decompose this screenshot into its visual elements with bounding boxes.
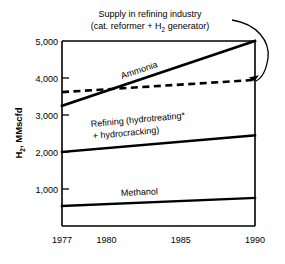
y-axis-ticks: [62, 78, 69, 189]
series-line-refining: [62, 135, 255, 152]
y-tick-label-2000: 2,000: [35, 148, 58, 158]
x-tick-label-1990: 1990: [245, 235, 265, 245]
chart-title-line2: (cat. reformer + H2 generator): [91, 21, 209, 33]
series-label-ammonia: Ammonia: [119, 59, 158, 81]
series-line-supply-refining-industry: [62, 80, 255, 92]
series-label-methanol: Methanol: [121, 186, 158, 198]
y-tick-label-3000: 3,000: [35, 111, 58, 121]
y-axis-title: H2, MMscfd: [13, 107, 26, 158]
y-tick-label-1000: 1,000: [35, 185, 58, 195]
x-axis-tick-labels: 1977 1980 1985 1990: [52, 235, 265, 245]
chart-title-line2-pre: (cat. reformer + H: [91, 21, 162, 31]
y-tick-label-4000: 4,000: [35, 74, 58, 84]
chart-canvas: Supply in refining industry (cat. reform…: [0, 0, 285, 264]
y-axis-tick-labels: 5,000 4,000 3,000 2,000 1,000: [35, 37, 58, 195]
callout-arrow-icon: [232, 20, 268, 82]
y-axis-title-post: , MMscfd: [13, 107, 24, 148]
series-line-methanol: [62, 198, 255, 206]
y-tick-label-5000: 5,000: [35, 37, 58, 47]
series-line-ammonia: [62, 41, 255, 106]
chart-title-line1: Supply in refining industry: [98, 9, 202, 19]
x-tick-label-1977: 1977: [52, 235, 72, 245]
chart-title-line2-post: generator): [165, 21, 209, 31]
chart-figure: Supply in refining industry (cat. reform…: [0, 0, 285, 264]
x-tick-label-1980: 1980: [96, 235, 116, 245]
x-tick-label-1985: 1985: [171, 235, 191, 245]
